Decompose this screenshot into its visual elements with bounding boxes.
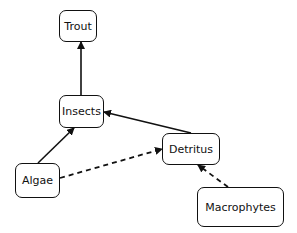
node-label-macrophytes: Macrophytes bbox=[205, 201, 276, 214]
node-algae: Algae bbox=[15, 163, 60, 198]
node-label-algae: Algae bbox=[22, 174, 53, 187]
node-label-trout: Trout bbox=[64, 20, 91, 33]
node-label-insects: Insects bbox=[62, 105, 101, 118]
node-detritus: Detritus bbox=[162, 133, 220, 165]
food-web-diagram: Trout Insects Algae Detritus Macrophytes bbox=[0, 0, 297, 233]
node-trout: Trout bbox=[59, 10, 97, 42]
edge-algae-to-detritus bbox=[60, 149, 162, 178]
edge-detritus-to-insects bbox=[104, 112, 191, 133]
edge-algae-to-insects bbox=[38, 128, 74, 163]
node-insects: Insects bbox=[59, 95, 104, 128]
edge-macrophytes-to-detritus bbox=[198, 165, 228, 187]
node-macrophytes: Macrophytes bbox=[197, 187, 284, 227]
node-label-detritus: Detritus bbox=[169, 143, 213, 156]
